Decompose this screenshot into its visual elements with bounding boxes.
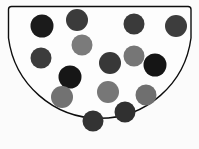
ball-11[interactable] [51,86,73,108]
ball-10[interactable] [59,66,82,89]
ball-7[interactable] [124,46,145,67]
ball-1[interactable] [31,15,54,38]
ball-3[interactable] [124,14,145,35]
ball-14[interactable] [115,102,136,123]
ball-8[interactable] [99,52,121,74]
ball-4[interactable] [165,15,187,37]
ball-9[interactable] [144,54,167,77]
ball-5[interactable] [72,35,93,56]
scene-canvas [0,0,199,149]
ball-12[interactable] [97,81,119,103]
ball-2[interactable] [66,9,88,31]
ball-13[interactable] [136,85,157,106]
illustration-svg [0,0,199,149]
ball-6[interactable] [31,48,52,69]
ball-15[interactable] [83,111,104,132]
